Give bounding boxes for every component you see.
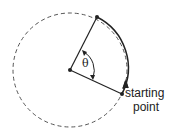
starting-label-line2: point (133, 101, 159, 114)
solid-arc (97, 17, 128, 94)
starting-point (120, 92, 124, 96)
theta-label: θ (82, 57, 89, 70)
center-point (68, 68, 72, 72)
radius-start (70, 70, 122, 94)
top-point (95, 15, 99, 19)
starting-label-line1: starting (125, 87, 164, 100)
angle-arrowhead-top-icon (82, 50, 87, 56)
